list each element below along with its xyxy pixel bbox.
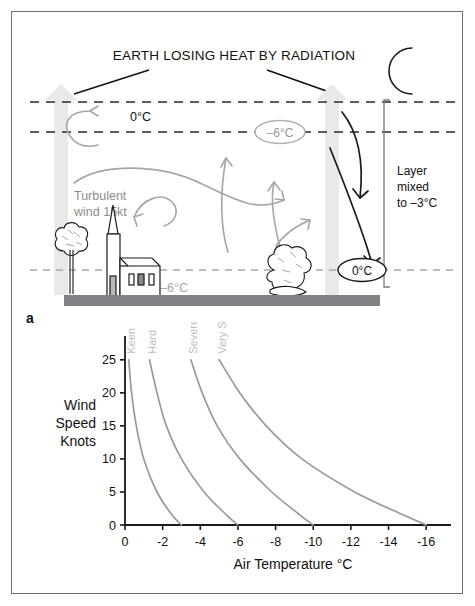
chart-axes (125, 336, 451, 525)
panel-a-radiation-diagram: EARTH LOSING HEAT BY RADIATION (12, 12, 464, 322)
y-axis-title-line: Knots (60, 433, 96, 449)
y-tick-label: 5 (109, 485, 116, 499)
panel-a-canvas: EARTH LOSING HEAT BY RADIATION (12, 12, 464, 322)
figure-frame: EARTH LOSING HEAT BY RADIATION (11, 11, 463, 594)
label-mid-temp: –6°C (267, 126, 294, 140)
x-tick-label: 0 (122, 535, 129, 549)
church-icon (107, 205, 160, 296)
y-axis-title: WindSpeedKnots (56, 397, 96, 449)
label-mixed-surface-temp: 0°C (352, 264, 372, 278)
y-axis-title-line: Wind (64, 397, 96, 413)
series-curve-severe (191, 360, 313, 525)
curve-label-keen: Keen (125, 328, 137, 354)
x-tick-label: -2 (157, 535, 168, 549)
label-layer-line2: mixed (397, 180, 429, 194)
label-wind-line1: Turbulent (74, 189, 127, 203)
y-axis-ticks: 0510152025 (102, 353, 125, 532)
y-tick-label: 25 (102, 353, 116, 367)
y-tick-label: 15 (102, 419, 116, 433)
figure-root: EARTH LOSING HEAT BY RADIATION (0, 0, 475, 606)
y-tick-label: 0 (109, 519, 116, 533)
crescent-moon-icon (389, 48, 412, 94)
x-axis-ticks: 0-2-4-6-8-10-12-14-16 (122, 525, 436, 549)
label-wind-line2: wind 15kt (73, 205, 127, 219)
curve-label-severe: Severe (187, 322, 199, 354)
series-curve-hard (150, 360, 238, 525)
x-tick-label: -12 (342, 535, 360, 549)
panel-b-frost-chart: 05101520250-2-4-6-8-10-12-14-16KeenHardS… (12, 322, 464, 595)
label-surface-temp: –6°C (160, 281, 188, 295)
x-tick-label: -4 (195, 535, 206, 549)
curve-label-hard: Hard (146, 330, 158, 354)
title-pointer-lines (74, 70, 335, 94)
chart-series-group (129, 360, 426, 525)
label-mixed-surface-temp-bubble: 0°C (338, 259, 386, 282)
x-axis-title: Air Temperature °C (234, 556, 353, 572)
curve-labels: KeenHardSevereVery Severe (125, 322, 227, 354)
x-tick-label: -10 (304, 535, 322, 549)
frost-severity-chart-canvas: 05101520250-2-4-6-8-10-12-14-16KeenHardS… (12, 322, 464, 595)
label-top-temp: 0°C (130, 110, 151, 124)
x-tick-label: -16 (417, 535, 435, 549)
x-tick-label: -14 (379, 535, 397, 549)
y-tick-label: 10 (102, 452, 116, 466)
label-layer-line1: Layer (397, 164, 427, 178)
curve-label-very-severe: Very Severe (216, 322, 228, 354)
x-tick-label: -6 (232, 535, 243, 549)
bush-icon (267, 245, 311, 296)
series-curve-very-severe (219, 360, 426, 525)
y-tick-label: 20 (102, 386, 116, 400)
panel-a-title: EARTH LOSING HEAT BY RADIATION (113, 48, 356, 63)
mixed-layer-bracket (384, 100, 390, 287)
x-tick-label: -8 (270, 535, 281, 549)
ground-strip (64, 295, 380, 306)
isotherm-dashed-lines (30, 102, 455, 132)
label-layer-line3: to –3°C (397, 196, 437, 210)
label-mid-temp-bubble: –6°C (255, 121, 305, 144)
y-axis-title-line: Speed (56, 415, 96, 431)
